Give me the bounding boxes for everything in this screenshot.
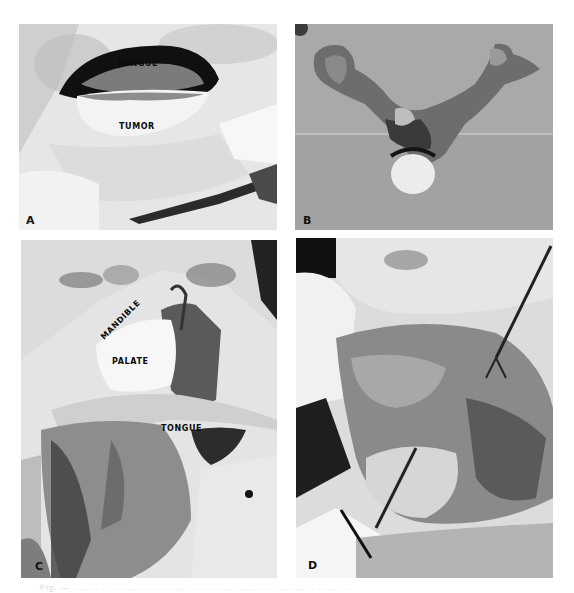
panel-label-d: D <box>308 559 317 572</box>
panel-d-photo: D <box>296 238 553 578</box>
figure-caption: Fig. — ........ . ... ......... .. .....… <box>40 583 540 592</box>
surgical-field-photo-c <box>21 240 277 578</box>
panel-b-photo: B <box>295 24 553 230</box>
annotation-palate: PALATE <box>112 357 149 366</box>
annotation-tongue-c: TONGUE <box>161 424 202 433</box>
panel-c-photo: MANDIBLE PALATE TONGUE C <box>21 240 277 578</box>
panel-a-photo: TONGUE TUMOR A <box>19 24 277 230</box>
panel-label-b: B <box>303 214 311 227</box>
surgical-field-photo-d <box>296 238 553 578</box>
resected-specimen-photo <box>295 24 553 230</box>
annotation-tongue: TONGUE <box>117 59 158 68</box>
panel-label-a: A <box>26 214 35 227</box>
annotation-tumor: TUMOR <box>119 122 155 131</box>
panel-label-c: C <box>35 560 43 573</box>
